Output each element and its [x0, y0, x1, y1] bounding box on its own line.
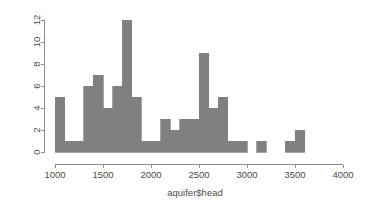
histogram-bar	[180, 119, 190, 152]
y-axis-tick-label: 10	[31, 37, 42, 48]
x-axis-tick-label: 1000	[44, 169, 65, 180]
x-axis-tick-label: 2000	[140, 169, 161, 180]
y-axis-tick-label: 8	[31, 61, 42, 66]
y-axis-tick-label: 4	[31, 105, 42, 110]
x-axis-title: aquifer$head	[167, 187, 222, 198]
y-axis-tick-label: 12	[31, 15, 42, 26]
y-axis-tick-label: 0	[31, 149, 42, 154]
histogram-bar	[65, 141, 75, 152]
histogram-bar	[74, 141, 84, 152]
x-axis-tick-label: 2500	[188, 169, 209, 180]
histogram-bar	[103, 108, 113, 152]
histogram-canvas: 024681012 1000150020002500300035004000 a…	[0, 0, 375, 211]
histogram-bar	[141, 141, 151, 152]
histogram-bar	[209, 108, 219, 152]
histogram-bar	[189, 119, 199, 152]
bars-group	[55, 20, 305, 152]
histogram-bar	[84, 86, 94, 152]
histogram-bar	[132, 97, 142, 152]
histogram-bar	[170, 130, 180, 152]
x-axis-tick-label: 1500	[92, 169, 113, 180]
x-axis-tick-label: 3000	[236, 169, 257, 180]
y-axis-tick-label: 2	[31, 127, 42, 132]
histogram-bar	[228, 141, 238, 152]
histogram-bar	[199, 53, 209, 152]
histogram-bar	[55, 97, 65, 152]
histogram-bar	[295, 130, 305, 152]
y-axis-tick-label: 6	[31, 83, 42, 88]
y-axis: 024681012	[31, 15, 45, 155]
histogram-bar	[285, 141, 295, 152]
histogram-bar	[218, 97, 228, 152]
x-axis-tick-label: 4000	[332, 169, 353, 180]
histogram-bar	[122, 20, 132, 152]
histogram-plot: 024681012 1000150020002500300035004000 a…	[0, 0, 375, 211]
x-axis: 1000150020002500300035004000	[44, 165, 353, 180]
histogram-bar	[113, 86, 123, 152]
histogram-bar	[151, 141, 161, 152]
histogram-bar	[237, 141, 247, 152]
x-axis-tick-label: 3500	[284, 169, 305, 180]
histogram-bar	[161, 119, 171, 152]
histogram-bar	[257, 141, 267, 152]
histogram-bar	[93, 75, 103, 152]
